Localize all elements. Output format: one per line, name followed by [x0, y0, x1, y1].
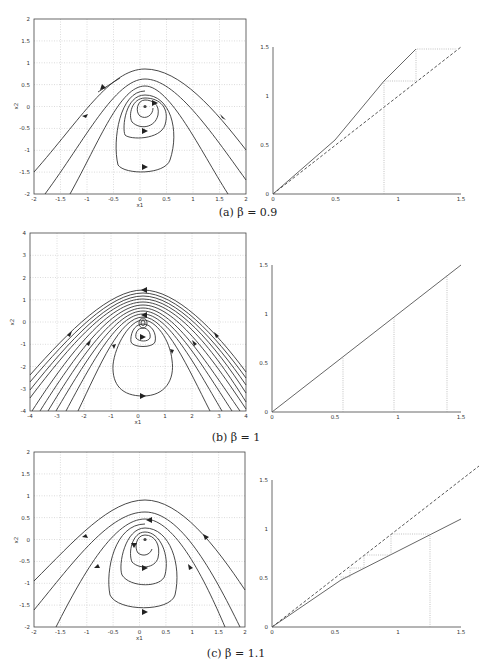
x-axis-label: x1 [135, 419, 142, 425]
svg-text:0.5: 0.5 [259, 360, 268, 366]
svg-text:0: 0 [265, 409, 269, 415]
svg-text:0.5: 0.5 [260, 142, 269, 148]
svg-text:1.5: 1.5 [259, 477, 268, 483]
svg-text:0.5: 0.5 [259, 575, 268, 581]
return-map-curve [272, 265, 461, 412]
svg-text:1.5: 1.5 [457, 629, 466, 635]
svg-text:1: 1 [265, 526, 269, 532]
cobweb [340, 534, 430, 627]
svg-text:0.5: 0.5 [331, 414, 340, 420]
svg-text:0.5: 0.5 [21, 82, 30, 88]
svg-text:1.5: 1.5 [259, 262, 268, 268]
figure-canvas: 2 1.5 1 0.5 0 -0.5 -1 -1.5 -2 -2 -1.5 -1… [0, 0, 490, 669]
svg-text:0.5: 0.5 [162, 629, 171, 635]
svg-text:0: 0 [23, 319, 27, 325]
svg-text:-2: -2 [31, 196, 36, 202]
svg-text:-0.5: -0.5 [108, 629, 119, 635]
plot-a-map: 0 0.5 1 1.5 0 0.5 1 1.5 [260, 44, 466, 202]
svg-text:2: 2 [190, 413, 194, 419]
svg-text:-1: -1 [25, 580, 30, 586]
svg-text:1: 1 [397, 196, 401, 202]
svg-text:2: 2 [27, 16, 31, 22]
caption-c: (c) β = 1.1 [207, 647, 265, 660]
direction-arrows [67, 287, 219, 399]
svg-text:1: 1 [191, 196, 195, 202]
svg-text:-3: -3 [21, 386, 27, 392]
svg-text:2: 2 [27, 449, 31, 455]
identity-line [273, 47, 461, 194]
svg-text:1: 1 [266, 93, 270, 99]
svg-text:0: 0 [27, 537, 31, 543]
svg-text:1: 1 [396, 629, 400, 635]
y-ticks: 2 1.5 1 0.5 0 -0.5 -1 -1.5 -2 [19, 16, 30, 197]
grid [30, 233, 246, 411]
svg-text:0: 0 [265, 624, 269, 630]
plot-c-phase: 2 1.5 1 0.5 0 -0.5 -1 -1.5 -2 -2 -1.5 -1… [13, 449, 247, 641]
equilibrium-point [143, 105, 146, 108]
svg-text:-2: -2 [81, 413, 86, 419]
svg-text:-3: -3 [54, 413, 60, 419]
svg-text:-1.5: -1.5 [19, 169, 30, 175]
svg-text:1.5: 1.5 [215, 196, 224, 202]
return-map-curve [272, 519, 461, 627]
equilibrium-point [143, 538, 146, 541]
svg-text:0: 0 [270, 414, 274, 420]
y-axis-label: x2 [9, 319, 15, 326]
svg-text:2: 2 [244, 196, 248, 202]
svg-text:0: 0 [270, 629, 274, 635]
svg-text:0: 0 [27, 104, 31, 110]
plot-b-map: 0 0.5 1 1.5 0 0.5 1 1.5 [259, 262, 466, 420]
svg-text:1.5: 1.5 [21, 471, 30, 477]
svg-text:4: 4 [244, 413, 248, 419]
svg-text:1.5: 1.5 [260, 44, 269, 50]
svg-text:1.5: 1.5 [457, 414, 466, 420]
svg-text:-4: -4 [27, 413, 33, 419]
y-axis-label: x2 [13, 537, 19, 544]
identity-line [272, 466, 479, 627]
svg-text:-1: -1 [84, 196, 89, 202]
svg-text:-2: -2 [25, 191, 30, 197]
svg-text:1: 1 [191, 629, 195, 635]
svg-text:1: 1 [265, 311, 269, 317]
svg-text:-2: -2 [21, 364, 26, 370]
plot-a-phase: 2 1.5 1 0.5 0 -0.5 -1 -1.5 -2 -2 -1.5 -1… [13, 16, 248, 208]
svg-text:3: 3 [23, 252, 27, 258]
svg-text:0: 0 [266, 191, 270, 197]
svg-text:0.5: 0.5 [162, 196, 171, 202]
svg-text:1.5: 1.5 [214, 629, 223, 635]
svg-text:0: 0 [271, 196, 275, 202]
svg-text:-1: -1 [108, 413, 113, 419]
svg-text:-1.5: -1.5 [19, 602, 30, 608]
svg-text:-1.5: -1.5 [55, 196, 66, 202]
svg-text:2: 2 [23, 275, 27, 281]
svg-text:1: 1 [163, 413, 167, 419]
x-axis-label: x1 [136, 635, 143, 641]
return-map-curve [273, 49, 416, 194]
svg-text:0.5: 0.5 [331, 629, 340, 635]
svg-text:-1.5: -1.5 [55, 629, 66, 635]
svg-text:1: 1 [23, 297, 27, 303]
svg-text:4: 4 [23, 230, 27, 236]
svg-text:-4: -4 [21, 408, 27, 414]
cobweb [343, 275, 447, 412]
svg-text:0.5: 0.5 [331, 196, 340, 202]
svg-text:-1: -1 [84, 629, 89, 635]
svg-text:1: 1 [27, 60, 31, 66]
cobweb [384, 49, 457, 194]
x-axis-label: x1 [137, 202, 144, 208]
svg-text:-1: -1 [25, 147, 30, 153]
svg-text:3: 3 [217, 413, 221, 419]
grid [34, 19, 246, 194]
caption-b: (b) β = 1 [212, 431, 261, 444]
svg-text:-0.5: -0.5 [19, 125, 30, 131]
caption-a: (a) β = 0.9 [219, 206, 278, 219]
svg-text:1: 1 [396, 414, 400, 420]
svg-text:-0.5: -0.5 [19, 558, 30, 564]
svg-text:1.5: 1.5 [457, 196, 466, 202]
svg-text:-2: -2 [25, 624, 30, 630]
plot-c-map: 0 0.5 1 1.5 0 0.5 1 1.5 [259, 466, 479, 635]
svg-text:2: 2 [243, 629, 247, 635]
trajectories [34, 500, 245, 627]
svg-text:-2: -2 [31, 629, 36, 635]
svg-text:-1: -1 [21, 341, 26, 347]
